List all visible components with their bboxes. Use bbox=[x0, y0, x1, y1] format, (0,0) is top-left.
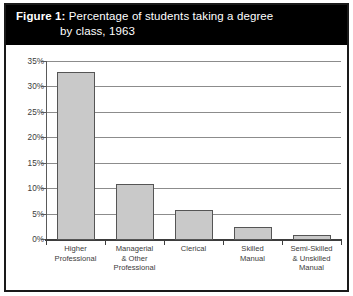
figure-title-line-2: by class, 1963 bbox=[16, 24, 339, 39]
x-axis-label-line: Professional bbox=[45, 254, 107, 264]
y-axis-tick-label: 20% bbox=[4, 133, 44, 142]
figure-title-line-1: Figure 1: Percentage of students taking … bbox=[16, 9, 339, 24]
bar bbox=[57, 72, 95, 240]
figure-label: Figure 1: bbox=[16, 10, 65, 22]
x-axis-category-label: Managerial& OtherProfessional bbox=[104, 244, 166, 273]
bar-slot bbox=[105, 48, 164, 240]
x-axis-label-line: Skilled bbox=[222, 244, 284, 254]
x-axis-label-line: Clerical bbox=[163, 244, 225, 254]
x-axis-category-label: Clerical bbox=[163, 244, 225, 254]
bar bbox=[293, 235, 331, 240]
x-axis-label-line: Managerial bbox=[104, 244, 166, 254]
x-axis-label-line: Higher bbox=[45, 244, 107, 254]
x-axis-category-label: Semi-Skilled& UnskilledManual bbox=[281, 244, 343, 273]
x-axis-label-line: & Unskilled bbox=[281, 254, 343, 264]
x-axis-category-label: HigherProfessional bbox=[45, 244, 107, 263]
x-axis-label-line: Manual bbox=[281, 263, 343, 273]
x-axis-label-line: Semi-Skilled bbox=[281, 244, 343, 254]
chart-plot-wrapper: 0%5%10%15%20%25%30%35% HigherProfessiona… bbox=[6, 48, 347, 290]
x-axis-category-labels: HigherProfessionalManagerial& OtherProfe… bbox=[46, 244, 341, 290]
bar-slot bbox=[223, 48, 282, 240]
y-axis-tick-label: 15% bbox=[4, 158, 44, 167]
figure-container: Figure 1: Percentage of students taking … bbox=[0, 0, 353, 296]
chart-bars bbox=[46, 48, 341, 240]
x-axis-label-line: Professional bbox=[104, 263, 166, 273]
y-axis-tick-label: 0% bbox=[4, 235, 44, 244]
x-axis-label-line: Manual bbox=[222, 254, 284, 264]
y-axis-tick-label: 5% bbox=[4, 209, 44, 218]
figure-title-text: Percentage of students taking a degree bbox=[65, 10, 273, 22]
bar bbox=[175, 210, 213, 241]
bar-slot bbox=[46, 48, 105, 240]
y-axis-tick-label: 10% bbox=[4, 184, 44, 193]
bar-slot bbox=[282, 48, 341, 240]
y-axis-tick-label: 30% bbox=[4, 82, 44, 91]
bar bbox=[116, 184, 154, 240]
bar bbox=[234, 227, 272, 240]
x-axis-label-line: & Other bbox=[104, 254, 166, 264]
y-axis-tick-labels: 0%5%10%15%20%25%30%35% bbox=[6, 48, 44, 290]
y-axis-tick-label: 35% bbox=[4, 57, 44, 66]
y-axis-tick-label: 25% bbox=[4, 107, 44, 116]
x-axis-category-label: SkilledManual bbox=[222, 244, 284, 263]
bar-slot bbox=[164, 48, 223, 240]
figure-title-band: Figure 1: Percentage of students taking … bbox=[6, 5, 347, 45]
